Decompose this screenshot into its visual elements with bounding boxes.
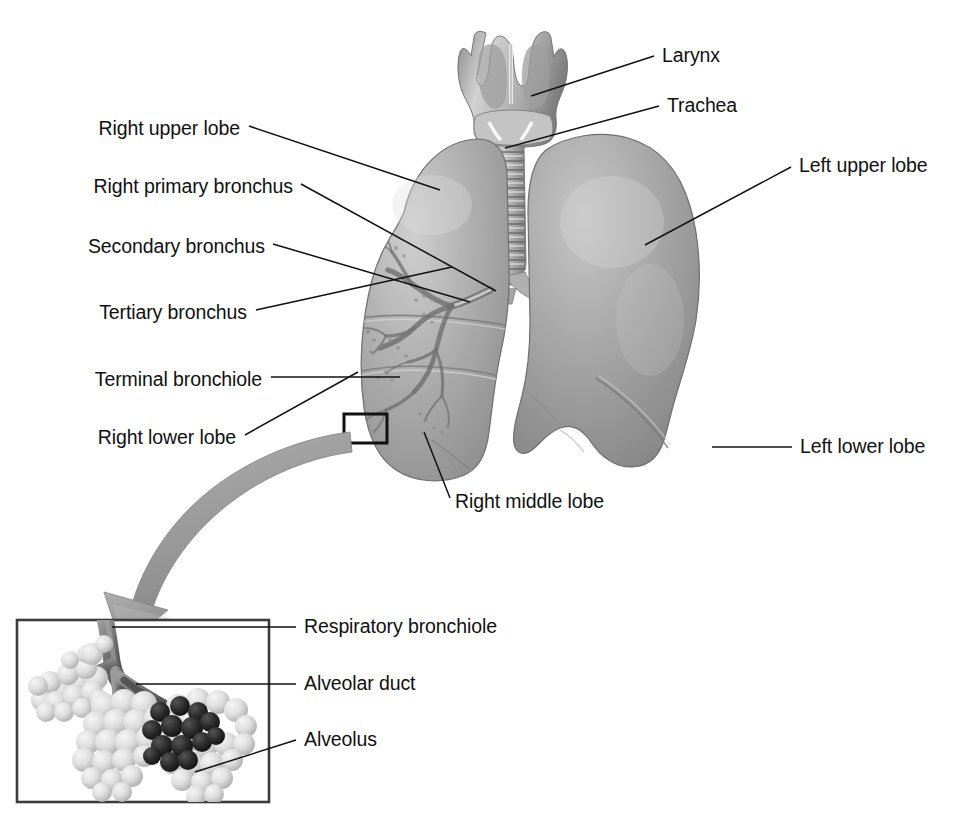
figure-canvas: Right upper lobe Right primary bronchus … — [0, 0, 953, 829]
label-terminal-bronchiole: Terminal bronchiole — [95, 370, 262, 390]
label-right-lower-lobe: Right lower lobe — [98, 428, 236, 448]
label-left-upper-lobe: Left upper lobe — [799, 156, 928, 176]
label-larynx: Larynx — [662, 46, 720, 66]
alveoli-inset — [17, 614, 269, 806]
label-alveolus: Alveolus — [304, 730, 377, 750]
label-alveolar-duct: Alveolar duct — [304, 674, 415, 694]
label-respiratory-bronchiole: Respiratory bronchiole — [304, 617, 497, 637]
left-lung — [514, 134, 700, 467]
label-tertiary-bronchus: Tertiary bronchus — [99, 303, 247, 323]
label-left-lower-lobe: Left lower lobe — [800, 437, 925, 457]
right-lung — [342, 139, 512, 481]
label-right-middle-lobe: Right middle lobe — [455, 492, 604, 512]
label-secondary-bronchus: Secondary bronchus — [88, 237, 265, 257]
label-right-upper-lobe: Right upper lobe — [99, 119, 241, 139]
label-right-primary-bronchus: Right primary bronchus — [94, 177, 293, 197]
label-trachea: Trachea — [667, 96, 737, 116]
